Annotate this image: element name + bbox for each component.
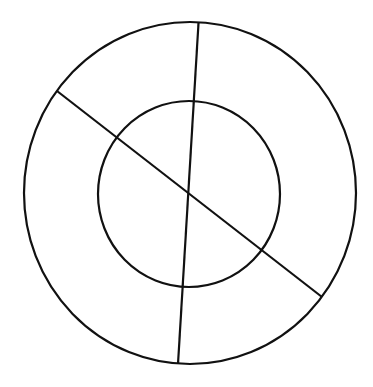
diagonal-line <box>57 91 322 297</box>
concentric-circles-diagram <box>0 0 373 387</box>
